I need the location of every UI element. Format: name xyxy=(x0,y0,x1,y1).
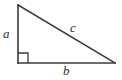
triangle-figure xyxy=(0,0,122,80)
label-side-a: a xyxy=(3,27,10,40)
label-side-b: b xyxy=(63,64,70,77)
right-angle-marker-icon xyxy=(18,53,28,63)
label-side-c: c xyxy=(70,21,76,34)
right-triangle-diagram: a b c xyxy=(0,0,122,80)
hypotenuse-c xyxy=(18,5,115,63)
